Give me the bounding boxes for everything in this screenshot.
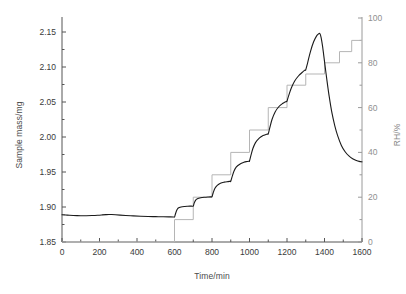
x-tick-label: 400 xyxy=(130,247,144,257)
y-tick-label-left: 1.85 xyxy=(39,237,56,247)
x-tick-label: 200 xyxy=(92,247,106,257)
y-axis-label-left: Sample mass/mg xyxy=(14,80,24,190)
y-tick-label-right: 100 xyxy=(368,13,382,23)
y-axis-label-right: RH/% xyxy=(392,80,402,190)
y-tick-label-right: 40 xyxy=(368,147,378,157)
x-tick-label: 0 xyxy=(60,247,65,257)
y-tick-label-left: 1.95 xyxy=(39,167,56,177)
x-tick-label: 1000 xyxy=(240,247,259,257)
y-tick-label-right: 80 xyxy=(368,58,378,68)
chart-plot-area: 02004006008001000120014001600 1.851.901.… xyxy=(0,0,406,294)
x-tick-label: 1400 xyxy=(315,247,334,257)
y-tick-label-left: 2.05 xyxy=(39,97,56,107)
y-tick-label-right: 20 xyxy=(368,192,378,202)
x-tick-label: 1200 xyxy=(278,247,297,257)
chart-figure: 02004006008001000120014001600 1.851.901.… xyxy=(0,0,406,294)
x-tick-label: 1600 xyxy=(353,247,372,257)
x-tick-label: 600 xyxy=(167,247,181,257)
x-axis-label: Time/min xyxy=(112,271,312,281)
y-tick-label-left: 2.15 xyxy=(39,27,56,37)
x-tick-label: 800 xyxy=(205,247,219,257)
y-tick-label-right: 60 xyxy=(368,103,378,113)
y-tick-label-left: 2.10 xyxy=(39,62,56,72)
y-tick-label-left: 2.00 xyxy=(39,132,56,142)
y-tick-label-right: 0 xyxy=(368,237,373,247)
y-tick-label-left: 1.90 xyxy=(39,202,56,212)
